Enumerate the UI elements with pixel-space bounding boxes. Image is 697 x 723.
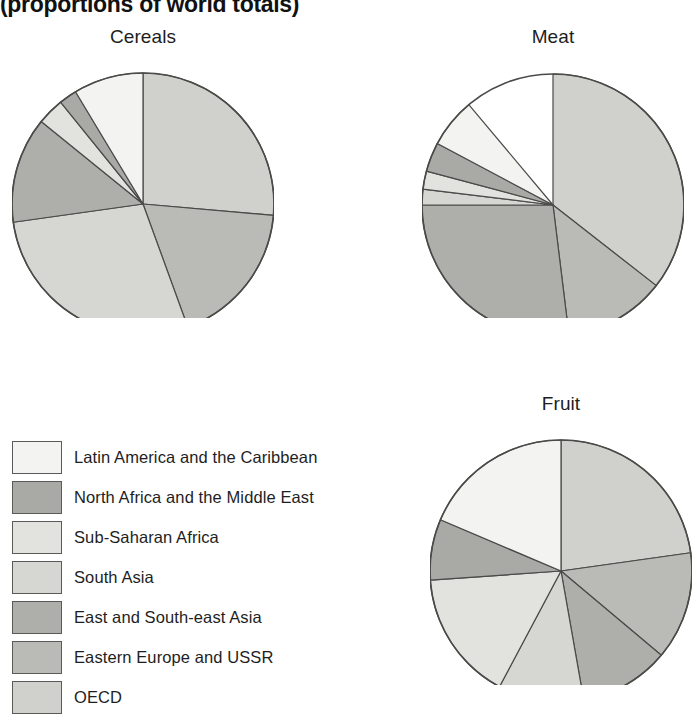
- pie-chart-fruit: [430, 419, 692, 685]
- legend-label-sub-saharan-africa: Sub-Saharan Africa: [74, 528, 219, 547]
- legend-swatch-south-asia: [12, 561, 62, 594]
- legend-swatch-east-southeast-asia: [12, 601, 62, 634]
- legend-item-east-southeast-asia: East and South-east Asia: [12, 597, 352, 637]
- chart-legend: Latin America and the Caribbean North Af…: [12, 437, 352, 717]
- legend-swatch-eastern-europe-ussr: [12, 641, 62, 674]
- pie-slice: [422, 205, 569, 318]
- legend-label-south-asia: South Asia: [74, 568, 154, 587]
- pie-slice: [143, 73, 274, 215]
- legend-item-south-asia: South Asia: [12, 557, 352, 597]
- legend-item-sub-saharan-africa: Sub-Saharan Africa: [12, 517, 352, 557]
- pie-chart-meat: [422, 52, 684, 318]
- pie-title-meat: Meat: [422, 26, 684, 48]
- legend-swatch-sub-saharan-africa: [12, 521, 62, 554]
- legend-item-latin-america: Latin America and the Caribbean: [12, 437, 352, 477]
- legend-item-oecd: OECD: [12, 677, 352, 717]
- legend-label-oecd: OECD: [74, 688, 122, 707]
- legend-item-eastern-europe-ussr: Eastern Europe and USSR: [12, 637, 352, 677]
- legend-label-north-africa: North Africa and the Middle East: [74, 488, 314, 507]
- legend-swatch-latin-america: [12, 441, 62, 474]
- pie-chart-cereals: [12, 52, 274, 318]
- legend-label-east-southeast-asia: East and South-east Asia: [74, 608, 262, 627]
- legend-swatch-oecd: [12, 681, 62, 714]
- legend-label-latin-america: Latin America and the Caribbean: [74, 448, 317, 467]
- pie-title-cereals: Cereals: [12, 26, 274, 48]
- pie-title-fruit: Fruit: [430, 393, 692, 415]
- pie-panel-cereals: Cereals: [12, 26, 274, 326]
- legend-swatch-north-africa: [12, 481, 62, 514]
- legend-label-eastern-europe-ussr: Eastern Europe and USSR: [74, 648, 274, 667]
- pie-slice: [561, 440, 691, 571]
- figure-subtitle: (proportions of world totals): [0, 0, 299, 18]
- pie-panel-meat: Meat: [422, 26, 684, 326]
- legend-item-north-africa: North Africa and the Middle East: [12, 477, 352, 517]
- pie-panel-fruit: Fruit: [430, 393, 692, 693]
